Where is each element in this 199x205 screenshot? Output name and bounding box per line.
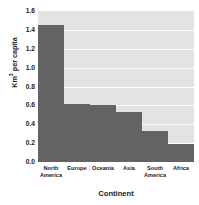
y-axis-tick-label: 0.4 (20, 121, 35, 127)
y-axis-title-superscript: 3 (8, 73, 14, 76)
x-axis-title: Continent (38, 189, 194, 198)
y-axis-title-suffix: per capita (10, 37, 19, 73)
x-axis-tick-label: Asia (116, 165, 142, 187)
bar (38, 25, 64, 162)
y-axis-tick-labels: 1.61.41.21.00.80.60.40.20.0 (20, 11, 35, 162)
x-axis-tick-labels: North AmericaEuropeOceaniaAsiaSouth Amer… (38, 165, 194, 187)
bar (116, 112, 142, 162)
bar-series (38, 11, 194, 162)
bar (64, 104, 90, 163)
x-axis-tick-label: North America (38, 165, 64, 187)
x-axis-tick-label: Europe (64, 165, 90, 187)
x-axis-tick-label: South America (142, 165, 168, 187)
y-axis-tick-label: 0.8 (20, 84, 35, 90)
y-axis-tick-label: 1.2 (20, 46, 35, 52)
bar (168, 144, 194, 162)
bar (142, 131, 168, 162)
y-axis-tick-label: 1.6 (20, 8, 35, 14)
bar (90, 105, 116, 162)
y-axis-tick-label: 0.0 (20, 159, 35, 165)
x-axis-tick-label: Oceania (90, 165, 116, 187)
y-axis-title-base: Km (10, 76, 19, 88)
y-axis-tick-label: 0.6 (20, 102, 35, 108)
y-axis-tick-label: 0.2 (20, 140, 35, 146)
y-axis-title: Km3 per capita (10, 18, 19, 108)
y-axis-tick-label: 1.4 (20, 27, 35, 33)
x-axis-tick-label: Africa (168, 165, 194, 187)
plot-area (38, 11, 194, 162)
y-axis-tick-label: 1.0 (20, 65, 35, 71)
chart-figure: Km3 per capita 1.61.41.21.00.80.60.40.20… (0, 0, 199, 205)
